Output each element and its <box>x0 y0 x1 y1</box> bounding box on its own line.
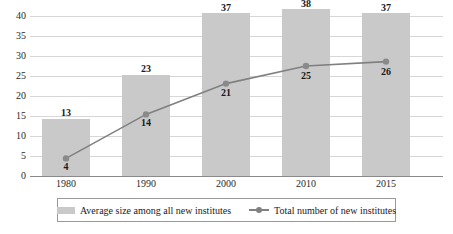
combo-chart: 40 35 30 25 20 15 10 5 0 13 23 37 38 <box>0 0 453 234</box>
bar-value-2010: 38 <box>282 0 330 9</box>
legend-item-total-number[interactable]: Total number of new institutes <box>249 205 396 216</box>
legend-label-total-number: Total number of new institutes <box>274 205 396 216</box>
point-2010 <box>303 63 309 69</box>
plot-area: 40 35 30 25 20 15 10 5 0 13 23 37 38 <box>0 0 453 190</box>
legend-item-average-size[interactable]: Average size among all new institutes <box>57 205 231 216</box>
line-value-2015: 26 <box>366 66 406 77</box>
x-axis-tick-1980: 1980 <box>42 178 90 189</box>
line-value-1990: 14 <box>126 117 166 128</box>
line-value-2000: 21 <box>206 87 246 98</box>
x-axis-tick-2000: 2000 <box>202 178 250 189</box>
bar-value-2000: 37 <box>202 2 250 13</box>
legend-label-average-size: Average size among all new institutes <box>80 205 231 216</box>
legend-line-point-icon <box>249 205 269 215</box>
chart-legend: Average size among all new institutes To… <box>57 198 396 222</box>
point-2000 <box>223 80 229 86</box>
x-axis-line <box>30 176 443 177</box>
x-axis-tick-1990: 1990 <box>122 178 170 189</box>
x-axis-tick-2015: 2015 <box>362 178 410 189</box>
x-axis-tick-2010: 2010 <box>282 178 330 189</box>
bar-value-2015: 37 <box>362 2 410 13</box>
point-2015 <box>383 58 389 64</box>
legend-swatch-icon <box>57 207 75 214</box>
trend-line <box>66 62 386 159</box>
bar-value-1990: 23 <box>122 63 170 74</box>
line-value-1980: 4 <box>46 161 86 172</box>
line-value-2010: 25 <box>286 70 326 81</box>
bar-value-1980: 13 <box>42 107 90 118</box>
